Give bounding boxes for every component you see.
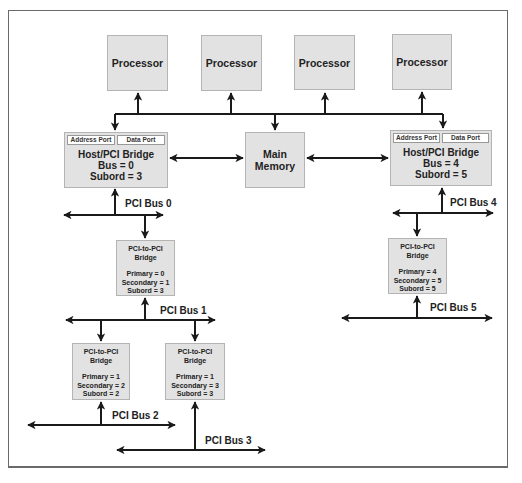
data-port: Data Port — [442, 133, 489, 143]
bridge-bus: Bus = 0 — [65, 160, 167, 171]
bridge-subord: Subord = 3 — [65, 171, 167, 182]
host-pci-bridge-box: Address Port Data Port Host/PCI Bridge B… — [390, 130, 492, 186]
bridge-subord: Subord = 3 — [166, 390, 224, 399]
bridge-title-1: PCI-to-PCI — [73, 348, 129, 357]
pci-to-pci-bridge-box: PCI-to-PCI Bridge Primary = 1 Secondary … — [165, 343, 225, 400]
bridge-title-2: Bridge — [73, 357, 129, 366]
bridge-title-1: PCI-to-PCI — [166, 348, 224, 357]
bridge-title-2: Bridge — [166, 357, 224, 366]
processor-label: Processor — [112, 57, 163, 69]
pci-to-pci-bridge-box: PCI-to-PCI Bridge Primary = 0 Secondary … — [116, 240, 175, 296]
bridge-secondary: Secondary = 5 — [389, 277, 446, 286]
bridge-bus: Bus = 4 — [391, 158, 491, 169]
bus-label-3: PCI Bus 3 — [205, 435, 252, 446]
pci-to-pci-bridge-box: PCI-to-PCI Bridge Primary = 1 Secondary … — [72, 343, 130, 400]
bridge-title-1: PCI-to-PCI — [117, 245, 174, 254]
bridge-subord: Subord = 5 — [391, 169, 491, 180]
bridge-title: Host/PCI Bridge — [391, 147, 491, 158]
processor-box: Processor — [392, 34, 452, 90]
bridge-primary: Primary = 1 — [73, 373, 129, 382]
main-memory-label-1: Main — [263, 148, 287, 160]
bridge-title: Host/PCI Bridge — [65, 149, 167, 160]
processor-label: Processor — [206, 57, 257, 69]
address-port: Address Port — [393, 133, 440, 143]
bridge-subord: Subord = 2 — [73, 390, 129, 399]
host-pci-bridge-box: Address Port Data Port Host/PCI Bridge B… — [64, 132, 168, 188]
processor-box: Processor — [107, 35, 168, 91]
bridge-secondary: Secondary = 3 — [166, 382, 224, 391]
processor-label: Processor — [299, 57, 350, 69]
main-memory-box: Main Memory — [245, 132, 305, 188]
bridge-title-2: Bridge — [117, 254, 174, 263]
processor-label: Processor — [396, 56, 447, 68]
bus-label-4: PCI Bus 4 — [450, 197, 497, 208]
data-port: Data Port — [117, 135, 165, 145]
address-port: Address Port — [67, 135, 115, 145]
pci-to-pci-bridge-box: PCI-to-PCI Bridge Primary = 4 Secondary … — [388, 238, 447, 294]
bus-label-0: PCI Bus 0 — [125, 198, 172, 209]
bus-label-2: PCI Bus 2 — [112, 410, 159, 421]
bridge-title-1: PCI-to-PCI — [389, 243, 446, 252]
bridge-subord: Subord = 3 — [117, 287, 174, 296]
bridge-primary: Primary = 0 — [117, 270, 174, 279]
bridge-primary: Primary = 1 — [166, 373, 224, 382]
processor-box: Processor — [294, 35, 355, 90]
bus-label-5: PCI Bus 5 — [430, 302, 477, 313]
bus-label-1: PCI Bus 1 — [160, 305, 207, 316]
bridge-title-2: Bridge — [389, 252, 446, 261]
bridge-primary: Primary = 4 — [389, 268, 446, 277]
bridge-secondary: Secondary = 1 — [117, 279, 174, 288]
bridge-secondary: Secondary = 2 — [73, 382, 129, 391]
main-memory-label-2: Memory — [255, 160, 295, 172]
processor-box: Processor — [201, 35, 262, 91]
bridge-subord: Subord = 5 — [389, 285, 446, 294]
